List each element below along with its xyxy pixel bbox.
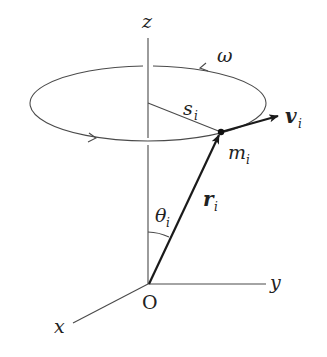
v-label: v i [285,104,302,131]
y-label: y [269,271,281,293]
theta-label: θ i [155,204,170,230]
s-label: s i [183,97,198,123]
origin-label: O [142,291,158,313]
z-label: z [141,10,153,32]
svg-text:i: i [246,153,250,167]
r-label: r i [203,187,218,214]
mass-point [218,129,224,135]
svg-text:i: i [298,117,302,131]
m-label: m i [228,141,250,167]
svg-text:i: i [194,109,198,123]
x-axis [73,284,148,323]
rotation-diagram: z y x O ω s i m i v i r i θ i [0,0,327,357]
svg-text:m: m [228,141,246,163]
svg-text:s: s [183,97,193,119]
omega-label: ω [217,44,233,66]
theta-arc [148,232,169,237]
svg-text:i: i [214,200,218,214]
svg-text:i: i [166,216,170,230]
velocity-vector-v [221,116,278,132]
svg-text:v: v [285,104,297,128]
orbit-arrow-bottom-icon [88,133,96,142]
x-label: x [54,315,65,337]
